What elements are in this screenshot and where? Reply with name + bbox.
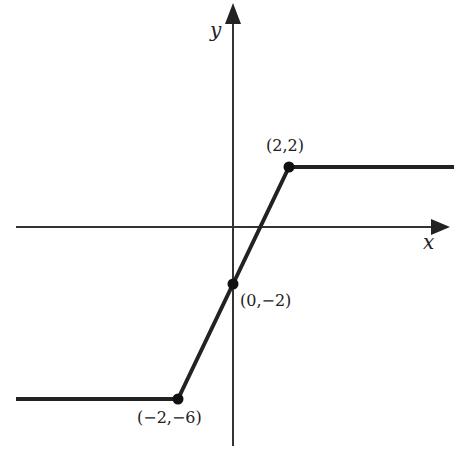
x-axis-label: x (423, 230, 434, 254)
point-neg2-neg6 (173, 394, 184, 405)
y-axis-arrow-icon (225, 3, 241, 24)
point-label-0-neg2: (0,−2) (240, 291, 291, 310)
y-axis-label: y (210, 18, 221, 42)
point-2-2 (284, 162, 295, 173)
point-label-2-2: (2,2) (266, 136, 304, 155)
point-label-neg2-neg6: (−2,−6) (137, 408, 202, 427)
function-graph (0, 0, 454, 451)
point-0-neg2 (228, 279, 239, 290)
